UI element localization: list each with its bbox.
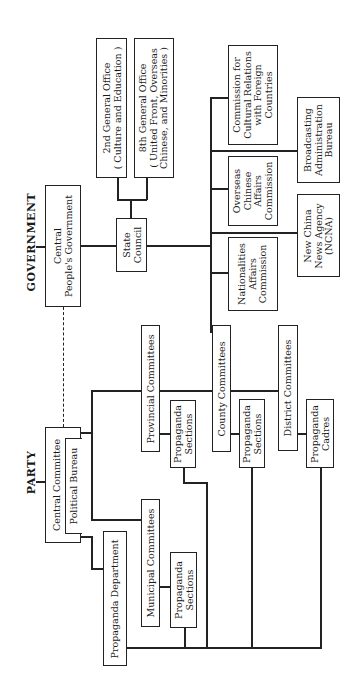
county-committees-box: County Committees <box>212 325 231 452</box>
municipal-propaganda-sections-box: PropagandaSections <box>170 552 197 628</box>
org-chart: GOVERNMENT PARTY CentralPeople's Governm… <box>0 0 358 700</box>
political-bureau-box: Political Bureau <box>65 438 82 534</box>
broadcasting-bureau-box: BroadcastingAdministrationBureau <box>297 97 340 183</box>
dashed-link <box>63 307 64 427</box>
ncna-box: New ChinaNews Agency(NCNA) <box>297 194 340 277</box>
second-general-office-box: 2nd General Office( Culture and Educatio… <box>96 38 127 178</box>
eighth-general-office-box: 8th General Office( United Front, Overse… <box>134 38 174 178</box>
party-header: PARTY <box>25 428 38 518</box>
state-council-box: StateCouncil <box>116 218 147 272</box>
municipal-committees-box: Municipal Committees <box>141 499 160 627</box>
provincial-propaganda-sections-box: PropagandaSections <box>170 400 196 468</box>
overseas-chinese-commission-box: OverseasChineseAffairsCommission <box>228 156 278 226</box>
county-propaganda-sections-box: PropagandaSections <box>239 399 265 468</box>
provincial-committees-box: Provincial Committees <box>141 325 160 452</box>
central-peoples-government-box: CentralPeople's Government <box>45 185 81 307</box>
district-committees-box: District Committees <box>278 325 298 451</box>
nationalities-commission-box: NationalitiesAffairsCommission <box>228 237 278 311</box>
propaganda-department-box: Propaganda Department <box>103 531 127 666</box>
district-propaganda-cadres-box: PropagandaCadres <box>306 399 334 468</box>
cultural-relations-commission-box: Commission forCultural Relationswith For… <box>228 45 278 145</box>
central-committee-box: Central Committee Political Bureau <box>45 427 81 543</box>
